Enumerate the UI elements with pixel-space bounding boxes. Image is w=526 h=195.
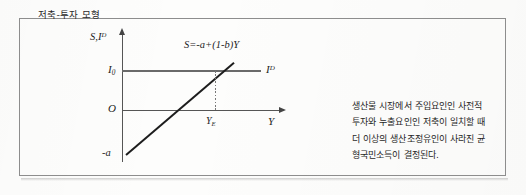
figure-panel: 저축-투자 모형 S,ID I0 O ID YE Y -a S=-a+(1-b)… (0, 0, 526, 195)
x-tick-label-ye: YE (206, 116, 216, 127)
origin-label: O (108, 103, 116, 114)
figure-caption: 저축-투자 모형 (38, 10, 100, 20)
note-line-2: 투자와 누출요인인 저축이 일치할 때 (352, 114, 504, 130)
saving-function-line (125, 62, 234, 156)
investment-demand-line (122, 70, 261, 72)
x-tick-ye-subscript: E (212, 120, 216, 127)
explanation-note: 생산물 시장에서 주입요인인 사전적 투자와 누출요인인 저축이 일치할 때 더… (352, 98, 504, 163)
x-axis-line (122, 110, 282, 111)
y-axis-label-text: S,I (90, 31, 101, 42)
y-axis-arrow-icon (119, 28, 125, 35)
y-axis-line (122, 34, 123, 162)
equilibrium-drop-line (215, 71, 216, 110)
x-axis-arrow-icon (279, 107, 286, 113)
y-axis-label-superscript: D (101, 31, 106, 38)
investment-line-label: ID (266, 64, 275, 75)
note-line-4: 형국민소득이 결정된다. (352, 147, 504, 163)
y-intercept-label: -a (102, 148, 111, 159)
x-axis-label: Y (268, 116, 274, 127)
y-tick-label-i0: I0 (108, 64, 115, 77)
savings-investment-chart: S,ID I0 O ID YE Y -a S=-a+(1-b)Y (88, 26, 288, 166)
note-line-1: 생산물 시장에서 주입요인인 사전적 (352, 98, 504, 114)
investment-line-label-superscript: D (270, 64, 275, 72)
saving-function-equation-label: S=-a+(1-b)Y (184, 40, 239, 51)
note-line-3: 더 이상의 생산조정유인이 사라진 균 (352, 131, 504, 147)
y-axis-label: S,ID (90, 32, 106, 43)
frame-drop-shadow (21, 178, 508, 181)
y-tick-i0-subscript: 0 (112, 69, 116, 77)
